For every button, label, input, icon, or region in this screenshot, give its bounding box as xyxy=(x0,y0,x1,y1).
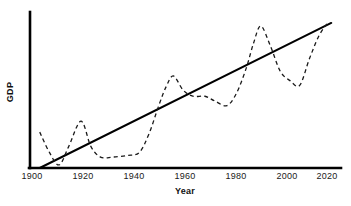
axis-spines xyxy=(29,12,341,168)
gdp-actual-curve xyxy=(40,21,329,165)
x-tick-label: 1920 xyxy=(73,171,94,181)
x-tick-label: 1960 xyxy=(175,171,196,181)
x-axis-title: Year xyxy=(175,186,195,196)
gdp-vs-year-chart: 1900 1920 1940 1960 1980 2000 2020 Year … xyxy=(0,0,351,206)
x-tick-label: 2020 xyxy=(317,171,338,181)
x-tick-label: 1940 xyxy=(124,171,145,181)
x-tick-label: 1900 xyxy=(22,171,43,181)
gdp-trend-line xyxy=(40,23,332,168)
x-tick-label: 1980 xyxy=(226,171,247,181)
x-tick-label: 2000 xyxy=(277,171,298,181)
y-axis-title: GDP xyxy=(5,82,15,102)
